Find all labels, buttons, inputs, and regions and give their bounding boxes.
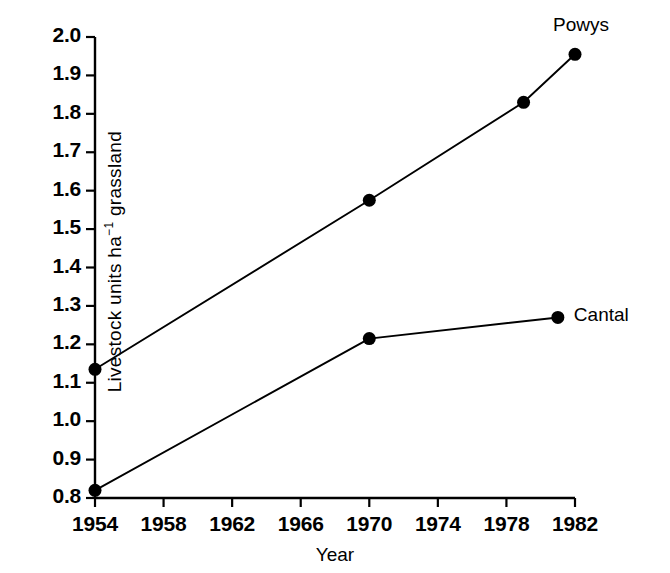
data-point-powys bbox=[569, 48, 582, 61]
chart-figure: Livestock units ha−1 grassland Year 0.80… bbox=[0, 0, 670, 573]
axes bbox=[86, 37, 575, 507]
data-point-cantal bbox=[89, 484, 102, 497]
data-point-powys bbox=[363, 194, 376, 207]
plot-area bbox=[0, 0, 670, 573]
data-point-cantal bbox=[551, 311, 564, 324]
data-point-powys bbox=[517, 96, 530, 109]
series-paths bbox=[89, 48, 582, 497]
data-point-powys bbox=[89, 363, 102, 376]
series-line-powys bbox=[95, 54, 575, 369]
series-line-cantal bbox=[95, 317, 558, 490]
data-point-cantal bbox=[363, 332, 376, 345]
